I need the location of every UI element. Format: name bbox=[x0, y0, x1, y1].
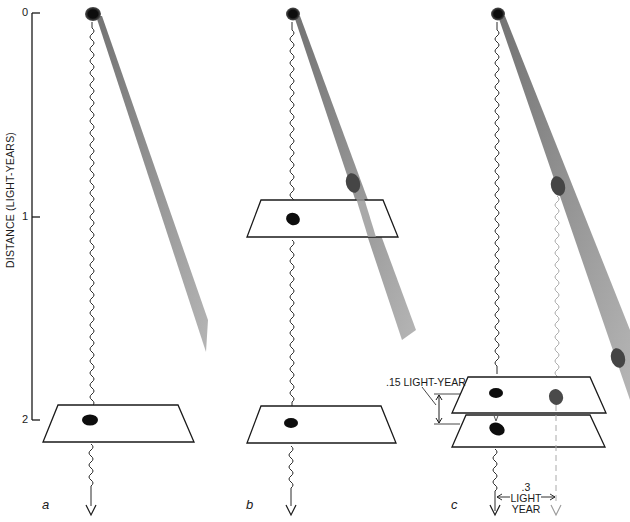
panel-c bbox=[422, 8, 630, 516]
detection-plane-2 bbox=[452, 415, 605, 447]
axis-tick-2: 2 bbox=[22, 413, 28, 425]
axis-title: DISTANCE (LIGHT-YEARS) bbox=[4, 132, 16, 268]
panel-a bbox=[43, 7, 208, 515]
star-source bbox=[491, 8, 505, 21]
wavy-light-ray-out bbox=[493, 449, 497, 511]
detection-plane-1 bbox=[247, 200, 398, 237]
axis-tick-0: 0 bbox=[22, 6, 28, 18]
axis-tick-1: 1 bbox=[22, 210, 28, 222]
down-arrow-icon bbox=[286, 505, 296, 515]
wavy-light-ray-out bbox=[289, 446, 293, 506]
detection-plane-2 bbox=[247, 406, 396, 443]
down-arrow-icon bbox=[551, 505, 561, 515]
diagram-canvas: 0 1 2 DISTANCE (LIGHT-YEARS) a b c .15 L… bbox=[0, 0, 630, 522]
distance-axis bbox=[32, 13, 40, 420]
wavy-light-ray bbox=[290, 240, 294, 410]
star-source bbox=[286, 8, 300, 21]
star-source bbox=[85, 7, 101, 21]
wavy-light-ray bbox=[495, 22, 499, 374]
panel-b bbox=[247, 8, 416, 516]
panel-label-a: a bbox=[42, 497, 49, 512]
wavy-light-ray bbox=[290, 22, 294, 224]
down-arrow-icon bbox=[86, 505, 96, 515]
detection-plane bbox=[43, 405, 194, 442]
wavy-light-ray bbox=[90, 22, 94, 420]
faint-light-ray bbox=[555, 196, 559, 382]
offset-label: .3 LIGHT YEAR bbox=[509, 482, 543, 515]
image-blob bbox=[489, 388, 503, 398]
panel-label-b: b bbox=[246, 497, 253, 512]
light-shaft bbox=[96, 16, 208, 352]
wavy-light-ray-out bbox=[89, 444, 93, 506]
offset-unit-2: YEAR bbox=[509, 504, 543, 515]
diagram-svg bbox=[0, 0, 630, 522]
image-blob bbox=[284, 418, 298, 428]
image-blob bbox=[82, 415, 98, 426]
detection-plane-1 bbox=[452, 377, 606, 413]
plane-separation-label: .15 LIGHT-YEAR bbox=[386, 376, 466, 388]
light-shaft bbox=[498, 16, 630, 400]
panel-label-c: c bbox=[451, 497, 458, 512]
